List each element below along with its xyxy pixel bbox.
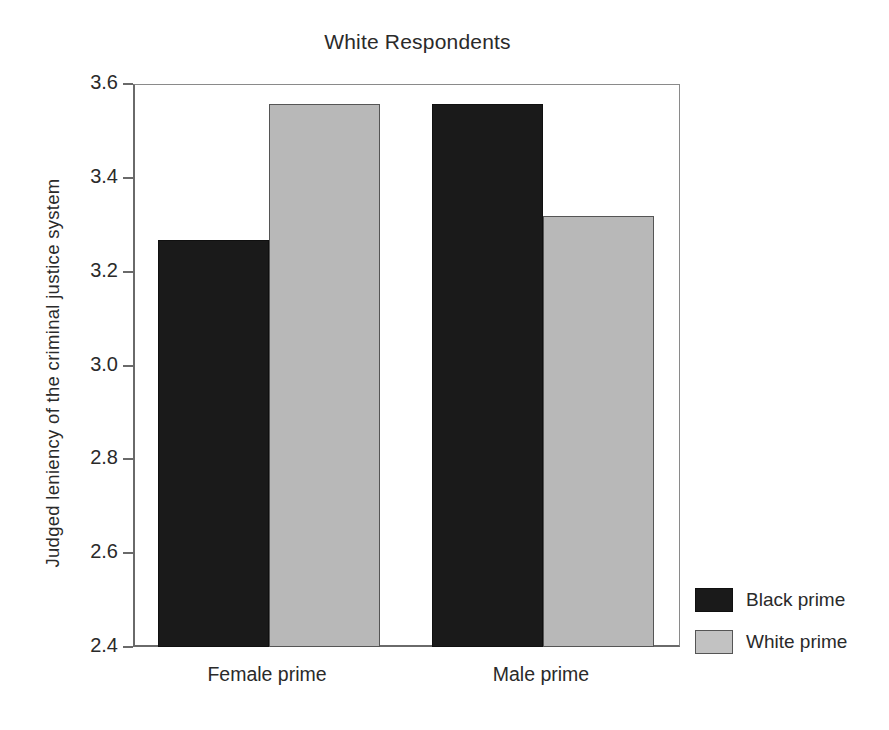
legend-item-white-prime: White prime (695, 625, 847, 659)
y-tick-mark (123, 552, 133, 554)
bar-female-prime-white-prime (269, 104, 380, 647)
y-tick-mark (123, 177, 133, 179)
y-tick-label: 3.4 (52, 165, 118, 189)
y-tick-label: 2.6 (52, 540, 118, 564)
bar-chart-figure: White Respondents Judged leniency of the… (0, 0, 889, 730)
y-tick-label-text: 3.2 (58, 259, 118, 282)
legend-swatch-icon (695, 630, 733, 654)
legend-item-black-prime: Black prime (695, 583, 847, 617)
y-tick-label: 2.4 (52, 634, 118, 658)
y-tick-label-text: 2.4 (58, 634, 118, 657)
y-tick-mark (123, 646, 133, 648)
x-axis-label-0: Female prime (157, 663, 377, 686)
bar-male-prime-white-prime (543, 216, 654, 647)
y-tick-label-text: 2.6 (58, 540, 118, 563)
legend-label: White prime (746, 631, 847, 653)
plot-area (133, 84, 680, 647)
legend-swatch-icon (695, 588, 733, 612)
y-tick-label-text: 3.6 (58, 71, 118, 94)
y-tick-mark (123, 271, 133, 273)
y-tick-mark (123, 458, 133, 460)
y-tick-label: 3.6 (52, 71, 118, 95)
legend-label: Black prime (746, 589, 845, 611)
y-tick-mark (123, 365, 133, 367)
chart-legend: Black primeWhite prime (695, 583, 847, 667)
bar-female-prime-black-prime (158, 240, 269, 647)
y-tick-label-text: 3.0 (58, 353, 118, 376)
y-tick-label-text: 3.4 (58, 165, 118, 188)
bar-male-prime-black-prime (432, 104, 543, 647)
y-tick-label: 3.2 (52, 259, 118, 283)
y-tick-label-text: 2.8 (58, 446, 118, 469)
y-tick-label: 2.8 (52, 446, 118, 470)
y-tick-label: 3.0 (52, 353, 118, 377)
chart-title: White Respondents (155, 30, 680, 54)
y-tick-mark (123, 83, 133, 85)
x-axis-label-1: Male prime (431, 663, 651, 686)
